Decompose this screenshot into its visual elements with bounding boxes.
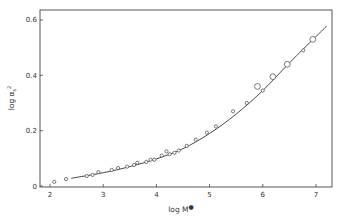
- data-point: [116, 166, 119, 169]
- data-point: [245, 101, 248, 104]
- y-tick-label: 0.2: [26, 127, 37, 135]
- y-tick-label: 0.4: [26, 72, 38, 80]
- plot-frame: [40, 10, 332, 187]
- y-axis-label: log αs2: [6, 86, 17, 111]
- data-point-large: [270, 74, 276, 80]
- data-point: [261, 89, 264, 92]
- x-tick-label: 4: [154, 191, 159, 199]
- data-point: [214, 125, 217, 128]
- data-point-large: [284, 61, 290, 67]
- data-point: [85, 174, 88, 177]
- x-axis-ticks: 234567: [48, 184, 318, 199]
- fitted-curve: [71, 26, 326, 178]
- data-points: [53, 36, 316, 183]
- chart: 00.20.40.6 234567 log M● log αs2: [0, 0, 345, 217]
- x-tick-label: 7: [314, 191, 318, 199]
- data-point: [145, 160, 148, 163]
- data-point: [185, 144, 188, 147]
- data-point: [177, 149, 180, 152]
- y-tick-label: 0: [33, 183, 37, 191]
- x-tick-label: 6: [261, 191, 266, 199]
- x-tick-label: 5: [207, 191, 211, 199]
- data-point: [231, 110, 234, 113]
- data-point: [168, 153, 171, 156]
- x-tick-label: 2: [48, 191, 52, 199]
- data-point: [149, 158, 152, 161]
- data-point: [302, 49, 305, 52]
- data-point: [91, 173, 94, 176]
- x-tick-label: 3: [101, 191, 105, 199]
- data-point: [110, 168, 113, 171]
- data-point: [194, 138, 197, 141]
- data-point: [132, 163, 135, 166]
- data-point: [205, 131, 208, 134]
- data-point: [97, 171, 100, 174]
- x-axis-label: log M●: [168, 203, 194, 214]
- data-point: [173, 151, 176, 154]
- data-point-large: [255, 83, 261, 89]
- data-point: [160, 154, 163, 157]
- data-point: [126, 165, 129, 168]
- data-point: [153, 158, 156, 161]
- data-point: [64, 177, 67, 180]
- data-point: [165, 150, 168, 153]
- y-tick-label: 0.6: [26, 16, 38, 24]
- data-point-large: [310, 36, 316, 42]
- data-point: [136, 161, 139, 164]
- data-point: [53, 180, 56, 183]
